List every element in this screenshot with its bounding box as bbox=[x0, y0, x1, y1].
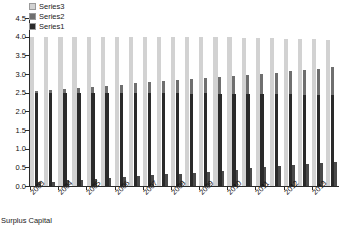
bar-series3 bbox=[213, 37, 217, 186]
bar-series3 bbox=[185, 37, 189, 186]
x-axis-tick-mark bbox=[143, 186, 144, 190]
bar-series3 bbox=[171, 37, 175, 186]
bar-series3 bbox=[115, 37, 119, 186]
x-axis-tick-mark bbox=[115, 186, 116, 190]
bar-series3-low bbox=[165, 174, 168, 186]
bar-series1 bbox=[162, 93, 165, 186]
x-axis-tick-mark bbox=[30, 186, 31, 190]
bar-series3 bbox=[44, 37, 48, 186]
x-axis-tick-mark bbox=[312, 186, 313, 190]
legend-item-label: Series3 bbox=[39, 2, 64, 11]
bar-series3 bbox=[129, 37, 133, 186]
y-axis-line bbox=[29, 18, 30, 186]
bar-series3 bbox=[270, 38, 274, 186]
legend-swatch-icon bbox=[29, 23, 36, 30]
bar-series3 bbox=[30, 37, 34, 186]
legend-item-series2[interactable]: Series2 bbox=[29, 12, 64, 21]
bar-series3-low bbox=[250, 168, 253, 186]
bar-series3 bbox=[87, 37, 91, 186]
bar-series1 bbox=[91, 93, 94, 186]
bar-series1 bbox=[105, 93, 108, 186]
bar-series3 bbox=[72, 37, 76, 186]
bar-series3 bbox=[298, 39, 302, 186]
bar-series3 bbox=[101, 37, 105, 186]
bar-series3 bbox=[312, 39, 316, 186]
bar-series3 bbox=[326, 40, 330, 186]
x-axis-tick-mark bbox=[284, 186, 285, 190]
bar-series1 bbox=[176, 93, 179, 186]
bar-series3 bbox=[143, 37, 147, 186]
legend-item-series1[interactable]: Series1 bbox=[29, 22, 64, 31]
bar-series3 bbox=[242, 38, 246, 186]
bar-chart: Series3Series2Series1 0.00.51.01.52.02.5… bbox=[0, 0, 343, 226]
bar-series3 bbox=[284, 39, 288, 186]
bar-series3-low bbox=[137, 176, 140, 186]
plot-area bbox=[29, 18, 339, 186]
bar-series3-low bbox=[306, 164, 309, 186]
x-axis-tick-mark bbox=[58, 186, 59, 190]
bar-series3-low bbox=[334, 162, 337, 186]
legend-swatch-icon bbox=[29, 13, 36, 20]
bar-series3 bbox=[157, 37, 161, 186]
bar-series3 bbox=[256, 38, 260, 186]
bar-series1 bbox=[63, 93, 66, 186]
legend-item-series3[interactable]: Series3 bbox=[29, 2, 64, 11]
x-axis-tick-mark bbox=[171, 186, 172, 190]
bar-series3 bbox=[199, 37, 203, 186]
bar-series3-low bbox=[193, 173, 196, 186]
bar-series3-low bbox=[109, 178, 112, 186]
bar-series1 bbox=[148, 93, 151, 186]
bar-series1 bbox=[35, 93, 38, 186]
bar-series1 bbox=[134, 93, 137, 186]
chart-legend: Series3Series2Series1 bbox=[29, 2, 64, 31]
x-axis-tick-mark bbox=[227, 186, 228, 190]
x-axis-tick-mark bbox=[199, 186, 200, 190]
legend-item-label: Series1 bbox=[39, 22, 64, 31]
bar-series3 bbox=[227, 37, 231, 186]
bar-series3 bbox=[58, 37, 62, 186]
x-axis-line bbox=[29, 186, 339, 187]
bar-series1 bbox=[77, 93, 80, 186]
bar-series3-low bbox=[278, 166, 281, 186]
chart-caption: Surplus Capital bbox=[1, 216, 52, 225]
x-axis-tick-mark bbox=[255, 186, 256, 190]
bar-series1 bbox=[49, 93, 52, 186]
legend-swatch-icon bbox=[29, 3, 36, 10]
bar-series3-low bbox=[222, 171, 225, 186]
x-axis-tick-mark bbox=[86, 186, 87, 190]
bar-series1 bbox=[120, 93, 123, 186]
legend-item-label: Series2 bbox=[39, 12, 64, 21]
